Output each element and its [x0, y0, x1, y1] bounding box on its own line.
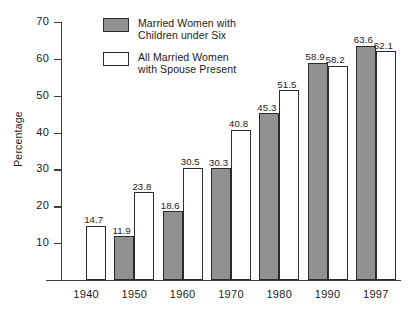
chart-legend: Married Women with Children under SixAll…: [103, 17, 236, 85]
y-axis-tick: 70: [54, 22, 62, 23]
y-axis-tick-label: 50: [36, 89, 49, 101]
bar: 51.5: [279, 90, 299, 280]
bar-chart: Percentage 70605040302010 14.711.923.818…: [0, 0, 419, 325]
x-axis-label: 1960: [170, 288, 196, 300]
bar: 14.7: [86, 226, 106, 280]
bar: 11.9: [114, 236, 134, 280]
legend-swatch: [103, 18, 129, 32]
bar: 23.8: [134, 192, 154, 280]
bar-value-label: 51.5: [277, 79, 296, 90]
bar-value-label: 18.6: [161, 200, 180, 211]
y-axis-title: Percentage: [12, 94, 24, 184]
bar: 40.8: [231, 130, 251, 280]
y-axis-tick: 60: [54, 59, 62, 60]
legend-item: Married Women with Children under Six: [103, 17, 236, 42]
y-axis-tick-label: 60: [36, 52, 49, 64]
bar-value-label: 63.6: [354, 34, 373, 45]
x-axis-label: 1990: [315, 288, 341, 300]
y-axis-tick-label: 30: [36, 162, 49, 174]
bar-value-label: 58.9: [306, 51, 325, 62]
bar-value-label: 62.1: [374, 40, 393, 51]
legend-label: Married Women with Children under Six: [138, 17, 236, 42]
bar: 62.1: [376, 51, 396, 280]
bar: 45.3: [259, 113, 279, 280]
bar-value-label: 14.7: [84, 214, 103, 225]
y-axis-tick: 50: [54, 96, 62, 97]
x-axis-label: 1980: [266, 288, 292, 300]
bar-value-label: 30.5: [181, 156, 200, 167]
x-axis-label: 1997: [363, 288, 389, 300]
bar: 63.6: [356, 46, 376, 280]
x-axis-label: 1950: [122, 288, 148, 300]
y-axis-tick-label: 70: [36, 15, 49, 27]
y-axis-tick: 30: [54, 169, 62, 170]
x-axis-line: [46, 280, 401, 281]
legend-label: All Married Women with Spouse Present: [138, 51, 236, 76]
bar: 30.3: [211, 168, 231, 280]
x-axis-label: 1940: [73, 288, 99, 300]
bar-value-label: 40.8: [229, 118, 248, 129]
bar-value-label: 23.8: [132, 181, 151, 192]
bar-value-label: 58.2: [326, 54, 345, 65]
y-axis-tick-label: 40: [36, 126, 49, 138]
legend-swatch: [103, 52, 129, 66]
legend-item: All Married Women with Spouse Present: [103, 51, 236, 76]
bar-value-label: 11.9: [112, 225, 130, 236]
y-axis-tick-label: 10: [36, 236, 49, 248]
y-axis-tick-label: 20: [36, 199, 49, 211]
bar: 18.6: [163, 211, 183, 280]
bar: 30.5: [183, 168, 203, 280]
y-axis-tick: 40: [54, 133, 62, 134]
bar: 58.2: [328, 66, 348, 281]
bar-value-label: 30.3: [209, 157, 228, 168]
y-axis-tick: 20: [54, 206, 62, 207]
bar: 58.9: [308, 63, 328, 280]
y-axis-tick: 10: [54, 243, 62, 244]
bar-value-label: 45.3: [257, 102, 276, 113]
x-axis-label: 1970: [218, 288, 244, 300]
